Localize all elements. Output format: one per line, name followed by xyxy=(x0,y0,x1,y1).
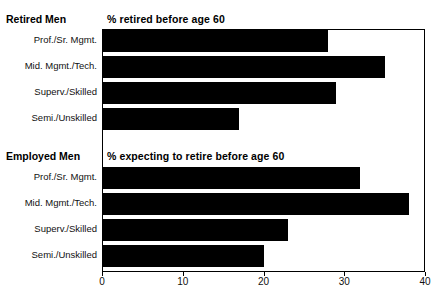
x-tick-label: 0 xyxy=(99,276,105,288)
bar-retired-superv-skilled xyxy=(102,82,336,104)
group-label-retired-men: Retired Men xyxy=(6,13,66,25)
category-label: Mid. Mgmt./Tech. xyxy=(25,60,97,71)
x-tick-label: 40 xyxy=(419,276,430,288)
x-tick-label: 10 xyxy=(177,276,188,288)
panel-title-retired: % retired before age 60 xyxy=(107,13,225,25)
category-label: Superv./Skilled xyxy=(34,86,97,97)
bar-retired-mid-mgmt-tech xyxy=(102,56,385,78)
panel-title-employed: % expecting to retire before age 60 xyxy=(107,150,284,162)
retirement-bar-chart: Retired Men Employed Men % retired befor… xyxy=(0,0,445,297)
group-label-employed-men: Employed Men xyxy=(6,150,80,162)
category-label: Semi./Unskilled xyxy=(32,249,97,260)
category-label: Superv./Skilled xyxy=(34,223,97,234)
bar-retired-prof-sr-mgmt xyxy=(102,30,328,52)
x-tick-label: 20 xyxy=(258,276,269,288)
bar-employed-mid-mgmt-tech xyxy=(102,193,409,215)
bar-retired-semi-unskilled xyxy=(102,108,239,130)
category-label: Prof./Sr. Mgmt. xyxy=(34,34,97,45)
category-label: Semi./Unskilled xyxy=(32,112,97,123)
bar-employed-prof-sr-mgmt xyxy=(102,167,360,189)
x-tick-label: 30 xyxy=(339,276,350,288)
bar-employed-superv-skilled xyxy=(102,219,288,241)
category-label: Mid. Mgmt./Tech. xyxy=(25,197,97,208)
bar-employed-semi-unskilled xyxy=(102,245,264,267)
category-label: Prof./Sr. Mgmt. xyxy=(34,171,97,182)
